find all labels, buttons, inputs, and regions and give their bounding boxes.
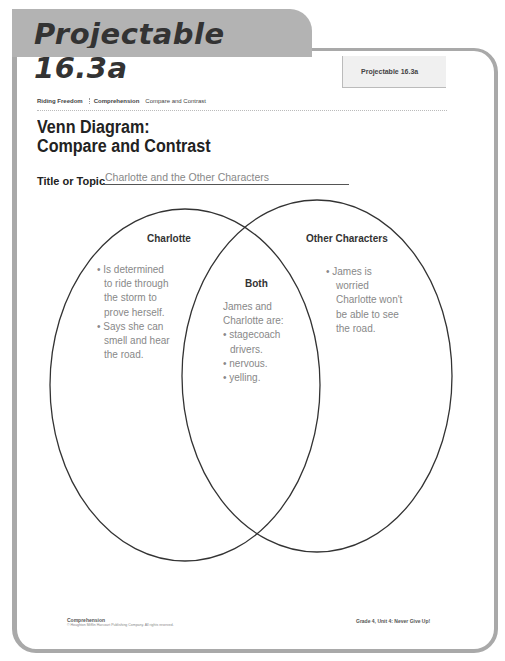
footer-copyright: © Houghton Mifflin Harcourt Publishing C…	[67, 623, 174, 627]
left-heading: Charlotte	[147, 233, 191, 244]
note-line: • nervous.	[223, 357, 284, 371]
note-line: Charlotte won't	[326, 293, 402, 307]
note-line: • Is determined	[97, 263, 170, 277]
note-line: the road.	[97, 348, 170, 362]
note-line: be able to see	[326, 308, 402, 322]
note-line: prove herself.	[97, 306, 170, 320]
left-notes: • Is determined to ride through the stor…	[97, 263, 170, 362]
center-heading: Both	[245, 278, 268, 289]
note-line: • stagecoach	[223, 328, 284, 342]
footer-unit: Grade 4, Unit 4: Never Give Up!	[356, 618, 430, 624]
note-line: • yelling.	[223, 371, 284, 385]
note-line: smell and hear	[97, 334, 170, 348]
note-line: drivers.	[223, 343, 284, 357]
note-line: the storm to	[97, 291, 170, 305]
note-line: Charlotte are:	[223, 314, 284, 328]
footer-left: Comprehension © Houghton Mifflin Harcour…	[67, 617, 174, 627]
right-heading: Other Characters	[306, 233, 388, 244]
right-notes: • James is worried Charlotte won't be ab…	[326, 265, 402, 336]
note-line: • Says she can	[97, 320, 170, 334]
center-notes: James and Charlotte are: • stagecoach dr…	[223, 300, 284, 385]
note-line: to ride through	[97, 277, 170, 291]
note-line: • James is	[326, 265, 402, 279]
note-line: worried	[326, 279, 402, 293]
note-line: the road.	[326, 322, 402, 336]
note-line: James and	[223, 300, 284, 314]
